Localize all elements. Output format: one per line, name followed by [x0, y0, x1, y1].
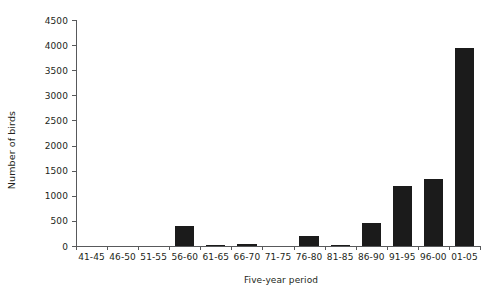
x-axis-tick [107, 246, 108, 250]
x-axis-tick-label: 61-65 [200, 252, 231, 262]
x-axis-tick [76, 246, 77, 250]
y-axis-tick: 4000 [72, 45, 76, 46]
y-axis-tick-label: 500 [51, 216, 68, 226]
y-axis-tick: 1000 [72, 196, 76, 197]
x-axis-tick-label: 91-95 [387, 252, 418, 262]
x-axis-tick-label: 96-00 [418, 252, 449, 262]
x-axis-line [76, 246, 480, 247]
y-axis-tick-label: 4000 [45, 41, 68, 51]
bar [175, 226, 194, 246]
x-axis-tick [262, 246, 263, 250]
bar [331, 245, 350, 246]
x-axis-tick [449, 246, 450, 250]
bar [393, 186, 412, 246]
y-axis-tick-label: 1000 [45, 191, 68, 201]
bar [362, 223, 381, 246]
x-axis-tick-label: 66-70 [231, 252, 262, 262]
y-axis-tick: 3000 [72, 95, 76, 96]
x-axis-tick [169, 246, 170, 250]
y-axis-tick: 3500 [72, 70, 76, 71]
y-axis-line [76, 20, 77, 246]
x-axis-tick-label: 51-55 [138, 252, 169, 262]
x-axis-tick [418, 246, 419, 250]
x-axis-tick-label: 81-85 [325, 252, 356, 262]
bar-chart-figure: Number of birds 050010001500200025003000… [0, 0, 494, 300]
y-axis-tick-label: 1500 [45, 166, 68, 176]
y-axis-tick: 2000 [72, 146, 76, 147]
y-axis-tick-label: 3000 [45, 91, 68, 101]
y-axis-tick-label: 3500 [45, 66, 68, 76]
x-axis-tick [200, 246, 201, 250]
x-axis-title: Five-year period [76, 275, 486, 285]
y-axis-tick-label: 4500 [45, 16, 68, 26]
x-axis-tick [231, 246, 232, 250]
bar [237, 244, 256, 246]
x-axis-tick-label: 86-90 [356, 252, 387, 262]
y-axis-tick: 1500 [72, 171, 76, 172]
x-axis-tick [138, 246, 139, 250]
y-axis-tick-label: 0 [62, 242, 68, 252]
y-axis-tick: 500 [72, 221, 76, 222]
y-axis-title: Number of birds [0, 0, 22, 300]
y-axis-tick-label: 2500 [45, 116, 68, 126]
bar [206, 245, 225, 246]
y-axis-tick-label: 2000 [45, 141, 68, 151]
y-axis-tick: 2500 [72, 120, 76, 121]
x-axis-tick [325, 246, 326, 250]
x-axis-tick-label: 41-45 [76, 252, 107, 262]
plot-area: 050010001500200025003000350040004500 41-… [76, 20, 480, 246]
x-axis-tick [294, 246, 295, 250]
x-axis-tick [480, 246, 481, 250]
x-axis-tick-label: 76-80 [294, 252, 325, 262]
bar [455, 48, 474, 246]
x-axis-tick-label: 56-60 [169, 252, 200, 262]
x-axis-tick-label: 71-75 [262, 252, 293, 262]
x-axis-tick-label: 46-50 [107, 252, 138, 262]
bar [424, 179, 443, 246]
bar [299, 236, 318, 246]
y-axis-tick: 4500 [72, 20, 76, 21]
x-axis-tick [387, 246, 388, 250]
x-axis-tick [356, 246, 357, 250]
x-axis-tick-label: 01-05 [449, 252, 480, 262]
